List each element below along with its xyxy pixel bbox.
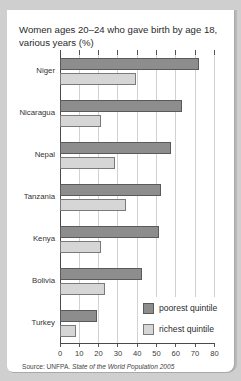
chart-card: Women ages 20–24 who gave birth by age 1… xyxy=(7,10,234,372)
category-label-tanzania: Tanzania xyxy=(9,192,55,201)
tick-mark-top xyxy=(98,50,99,55)
tick-mark-top xyxy=(137,50,138,55)
x-tick-label: 30 xyxy=(108,349,128,358)
y-axis-line xyxy=(60,50,61,344)
x-tick-label: 80 xyxy=(204,349,224,358)
x-tick-label: 70 xyxy=(185,349,205,358)
bar-richest-nepal xyxy=(60,157,115,169)
legend-swatch-richest xyxy=(143,324,154,335)
bar-richest-nicaragua xyxy=(60,115,102,127)
x-tick-label: 10 xyxy=(69,349,89,358)
category-label-niger: Niger xyxy=(9,66,55,75)
gridline xyxy=(98,50,99,343)
legend-label-poorest: poorest quintile xyxy=(159,303,217,313)
source-note: Source: UNFPA. State of the World Popula… xyxy=(22,363,174,370)
tick-mark-top xyxy=(175,50,176,55)
category-label-nicaragua: Nicaragua xyxy=(9,108,55,117)
gridline xyxy=(137,50,138,343)
bar-poorest-tanzania xyxy=(60,184,161,196)
bar-poorest-kenya xyxy=(60,226,159,238)
bar-richest-niger xyxy=(60,73,136,85)
category-label-turkey: Turkey xyxy=(9,318,55,327)
gridline xyxy=(79,50,80,343)
legend-item-poorest: poorest quintile xyxy=(143,301,217,315)
bar-richest-kenya xyxy=(60,241,102,253)
legend-swatch-poorest xyxy=(143,303,154,314)
legend: poorest quintile richest quintile xyxy=(139,297,227,343)
category-label-bolivia: Bolivia xyxy=(9,276,55,285)
x-tick-label: 50 xyxy=(147,349,167,358)
x-tick-label: 20 xyxy=(89,349,109,358)
bar-poorest-nicaragua xyxy=(60,100,183,112)
tick-mark-top xyxy=(79,50,80,55)
bar-richest-turkey xyxy=(60,325,76,337)
x-tick-label: 40 xyxy=(127,349,147,358)
bar-richest-tanzania xyxy=(60,199,127,211)
bar-richest-bolivia xyxy=(60,283,105,295)
x-tick-label: 60 xyxy=(166,349,186,358)
source-title: State of the World Population 2005 xyxy=(72,363,174,370)
legend-item-richest: richest quintile xyxy=(143,322,214,336)
tick-mark-top xyxy=(214,50,215,55)
tick-mark-top xyxy=(156,50,157,55)
legend-label-richest: richest quintile xyxy=(159,324,214,334)
bar-poorest-nepal xyxy=(60,142,171,154)
bar-poorest-niger xyxy=(60,58,200,70)
category-label-nepal: Nepal xyxy=(9,150,55,159)
tick-mark-top xyxy=(117,50,118,55)
gridline xyxy=(117,50,118,343)
x-tick-label: 0 xyxy=(50,349,70,358)
bar-poorest-turkey xyxy=(60,310,98,322)
tick-mark-top xyxy=(195,50,196,55)
x-axis-line xyxy=(60,343,215,344)
bar-poorest-bolivia xyxy=(60,268,142,280)
category-label-kenya: Kenya xyxy=(9,234,55,243)
source-prefix: Source: UNFPA. xyxy=(22,363,72,370)
